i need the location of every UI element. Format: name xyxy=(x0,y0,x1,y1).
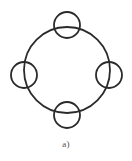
figure-diagram xyxy=(0,0,132,161)
figure-caption: a) xyxy=(0,138,132,150)
figure-container: a) xyxy=(0,0,132,161)
figure-background xyxy=(0,0,132,161)
